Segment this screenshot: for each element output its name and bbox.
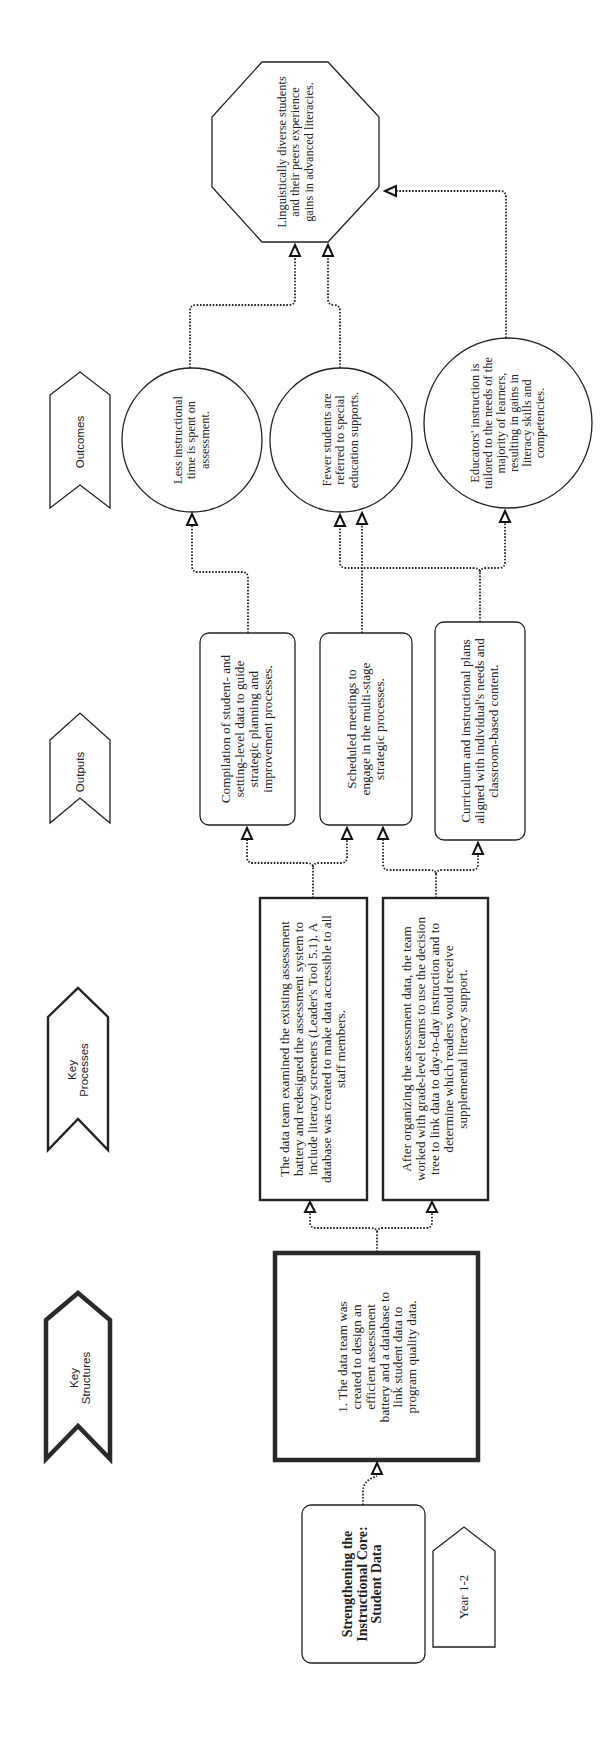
diagram-title-text: Strengthening the Instructional Core: St… — [341, 1525, 385, 1643]
process-1-text: The data team examined the existing asse… — [278, 914, 347, 1184]
output-2-text: Scheduled meetings to engage in the mult… — [345, 654, 387, 804]
output-2-text-block: Scheduled meetings to engage in the mult… — [322, 637, 410, 822]
outcome-1-text: Less instructional time is spent on asse… — [172, 385, 211, 495]
process-1-text-block: The data team examined the existing asse… — [263, 903, 363, 1195]
outcome-2-text-block: Fewer students are referred to special e… — [291, 378, 391, 503]
logic-model-diagram: Key Structures Key Processes Outputs Out… — [0, 0, 604, 1750]
year-tag-text: Year 1-2 — [457, 1575, 471, 1620]
label-outcomes: Outcomes — [55, 387, 105, 497]
year-tag: Year 1-2 — [439, 1547, 489, 1647]
structure-1-text: 1. The data team was created to design a… — [335, 1290, 418, 1425]
diagram-shapes — [0, 0, 604, 1750]
output-3-text-block: Curriculum and instructional plans align… — [437, 626, 523, 836]
outcome-3-text-block: Educators' instruction is tailored to th… — [433, 353, 583, 493]
process-2-text: After organizing the assessment data, th… — [400, 914, 469, 1184]
process-2-text-block: After organizing the assessment data, th… — [385, 903, 485, 1195]
label-key-structures-text: Key Structures — [68, 1343, 92, 1413]
long-term-outcome-text: Linguistically diverse students and thei… — [276, 73, 315, 231]
output-1-text-block: Compilation of student- and setting-leve… — [202, 637, 292, 822]
structure-1-text-block: 1. The data team was created to design a… — [280, 1260, 475, 1455]
label-key-processes-text: Key Processes — [66, 1035, 90, 1105]
label-outputs-text: Outputs — [74, 752, 86, 792]
output-1-text: Compilation of student- and setting-leve… — [219, 654, 274, 804]
label-outcomes-text: Outcomes — [74, 416, 86, 468]
label-key-structures: Key Structures — [55, 1323, 105, 1433]
output-3-text: Curriculum and instructional plans align… — [459, 631, 501, 831]
long-term-outcome-text-block: Linguistically diverse students and thei… — [221, 70, 371, 235]
outcome-3-text: Educators' instruction is tailored to th… — [469, 357, 547, 489]
diagram-title: Strengthening the Instructional Core: St… — [304, 1509, 422, 1659]
label-key-processes: Key Processes — [53, 1015, 103, 1125]
label-outputs: Outputs — [55, 727, 105, 817]
outcome-1-text-block: Less instructional time is spent on asse… — [142, 380, 242, 500]
outcome-2-text: Fewer students are referred to special e… — [321, 381, 360, 499]
